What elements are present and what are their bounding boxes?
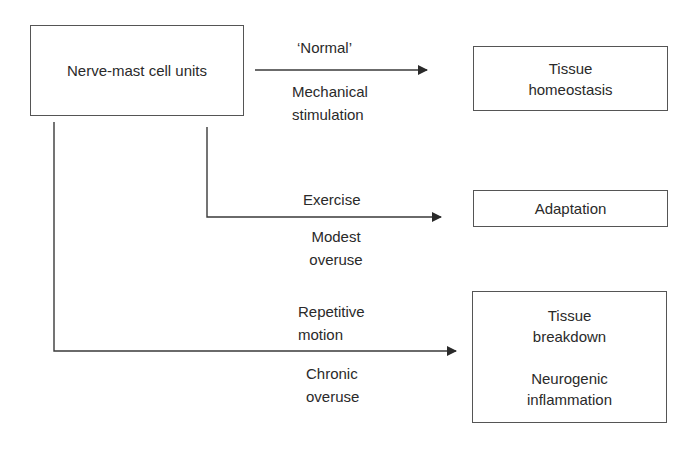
outcome-box-adaptation: Adaptation (473, 190, 668, 227)
label-line: Mechanical (292, 80, 368, 103)
outcome-line: Tissue (548, 305, 592, 326)
label-line: stimulation (292, 103, 368, 126)
outcome-line: homeostasis (528, 79, 612, 100)
label-line: overuse (307, 248, 365, 271)
outcome-line: Tissue (549, 58, 593, 79)
outcome-box-tissue-homeostasis: Tissue homeostasis (473, 46, 668, 111)
outcome-line: Adaptation (535, 198, 607, 219)
label-mechanical-stimulation: Mechanical stimulation (292, 80, 368, 126)
label-line: Modest (307, 225, 365, 248)
label-line: motion (298, 323, 365, 346)
label-line: Chronic (306, 362, 359, 385)
label-exercise-text: Exercise (303, 191, 361, 208)
outcome-line: Neurogenic (531, 368, 608, 389)
label-modest-overuse: Modest overuse (307, 225, 365, 271)
outcome-box-tissue-breakdown: Tissue breakdown Neurogenic inflammation (472, 291, 667, 423)
label-chronic-overuse: Chronic overuse (306, 362, 359, 408)
outcome-line: breakdown (533, 326, 606, 347)
source-box-label: Nerve-mast cell units (67, 60, 207, 81)
source-box-nerve-mast-cell-units: Nerve-mast cell units (30, 25, 244, 116)
label-line: Repetitive (298, 300, 365, 323)
outcome-line: inflammation (527, 389, 612, 410)
label-normal-text: ‘Normal’ (297, 39, 352, 56)
arrow-repetitive (54, 122, 456, 351)
label-line: overuse (306, 385, 359, 408)
label-normal: ‘Normal’ (297, 36, 352, 59)
label-repetitive-motion: Repetitive motion (298, 300, 365, 346)
label-exercise: Exercise (303, 188, 361, 211)
